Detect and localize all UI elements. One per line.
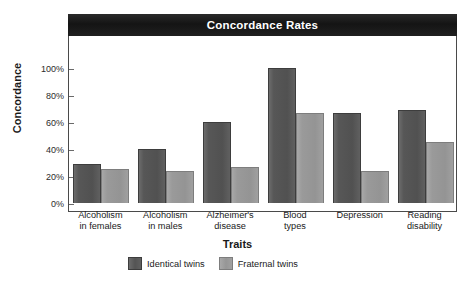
bar-fraternal-twins [231, 167, 259, 203]
x-axis-tick-label: Blood types [262, 210, 327, 232]
y-axis-tick-label: 20% [30, 172, 64, 182]
bar-fraternal-twins [296, 113, 324, 203]
x-axis-tick-label: Alcoholism in males [133, 210, 198, 232]
legend-item-label: Fraternal twins [238, 259, 298, 269]
bar-identical-twins [138, 149, 166, 203]
bar-group [136, 149, 196, 203]
y-axis-tick-label: 40% [30, 145, 64, 155]
bar-group [331, 113, 391, 203]
fraternal-twins-swatch [219, 257, 233, 270]
plot-area [69, 36, 456, 211]
chart-title: Concordance Rates [207, 19, 318, 31]
bar-fraternal-twins [166, 171, 194, 203]
bar-identical-twins [333, 113, 361, 203]
chart-figure: Concordance Rates Concordance 0%20%40%60… [0, 0, 475, 289]
bar-fraternal-twins [426, 142, 454, 203]
bar-identical-twins [398, 110, 426, 203]
bar-series-container [69, 36, 456, 211]
bar-group [396, 110, 456, 203]
y-axis-tick-label: 100% [30, 64, 64, 74]
y-axis-tick-label: 0% [30, 199, 64, 209]
legend-item-label: Identical twins [147, 259, 205, 269]
y-axis-tick-label: 60% [30, 118, 64, 128]
x-axis-title: Traits [0, 238, 475, 250]
x-axis-tick-label: Depression [327, 210, 392, 221]
x-axis-tick-label: Alcoholism in females [68, 210, 133, 232]
bar-identical-twins [73, 164, 101, 203]
x-axis-tick-label: Alzheimer's disease [198, 210, 263, 232]
bar-identical-twins [203, 122, 231, 203]
chart-legend: Identical twinsFraternal twins [128, 257, 298, 270]
plot-frame [68, 36, 457, 212]
x-axis-tick-label: Reading disability [392, 210, 457, 232]
bar-fraternal-twins [361, 171, 389, 203]
y-axis-tick-label: 80% [30, 91, 64, 101]
bar-group [71, 164, 131, 203]
y-axis-title: Concordance [11, 63, 23, 133]
legend-item[interactable]: Fraternal twins [219, 257, 298, 270]
bar-group [201, 122, 261, 203]
bar-identical-twins [268, 68, 296, 203]
identical-twins-swatch [128, 257, 142, 270]
legend-item[interactable]: Identical twins [128, 257, 205, 270]
bar-fraternal-twins [101, 169, 129, 203]
bar-group [266, 68, 326, 203]
chart-title-bar: Concordance Rates [68, 14, 457, 36]
